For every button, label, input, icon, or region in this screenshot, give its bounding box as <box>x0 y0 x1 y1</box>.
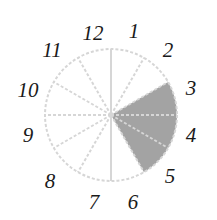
hour-label-8: 8 <box>45 169 56 193</box>
hour-label-2: 2 <box>163 38 174 62</box>
hour-label-7: 7 <box>89 190 101 214</box>
radial-line <box>54 82 111 115</box>
hour-label-10: 10 <box>18 78 40 102</box>
hour-label-1: 1 <box>129 19 140 43</box>
radial-line <box>78 115 111 172</box>
clock-sector-diagram: 121234567891011 <box>0 0 217 220</box>
hour-label-6: 6 <box>128 190 139 214</box>
hour-label-4: 4 <box>186 123 197 147</box>
hour-label-3: 3 <box>185 76 197 100</box>
shaded-sector <box>111 82 177 172</box>
hour-label-9: 9 <box>23 123 34 147</box>
radial-line <box>54 115 111 148</box>
hour-label-12: 12 <box>83 21 105 45</box>
hour-label-5: 5 <box>165 164 176 188</box>
radial-line <box>78 58 111 115</box>
hour-label-11: 11 <box>42 38 61 62</box>
